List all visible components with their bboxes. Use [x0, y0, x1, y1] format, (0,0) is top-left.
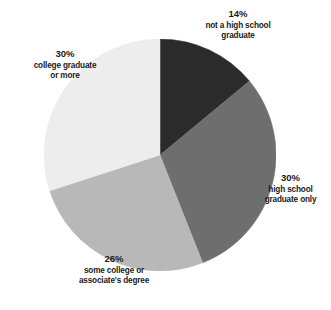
- pie-label-text-line-1: college graduate: [4, 61, 126, 71]
- pie-label-text-line-2: graduate only: [250, 195, 331, 205]
- pie-label-some-college-or-associates-degree: 26% some college or associate's degree: [48, 253, 180, 287]
- pie-label-text-line-2: graduate: [182, 31, 294, 41]
- pie-label-text-line-1: high school: [250, 185, 331, 195]
- pie-label-percent: 26%: [48, 253, 180, 265]
- pie-label-high-school-graduate-only: 30% high school graduate only: [250, 172, 331, 206]
- pie-label-not-a-high-school-graduate: 14% not a high school graduate: [182, 8, 294, 42]
- pie-label-text-line-1: some college or: [48, 266, 180, 276]
- pie-label-percent: 30%: [4, 48, 126, 60]
- pie-chart-figure: 14% not a high school graduate 30% high …: [0, 0, 331, 310]
- pie-label-text-line-1: not a high school: [182, 21, 294, 31]
- pie-label-text-line-2: associate's degree: [48, 276, 180, 286]
- pie-label-text-line-2: or more: [4, 71, 126, 81]
- pie-label-college-graduate-or-more: 30% college graduate or more: [4, 48, 126, 82]
- pie-label-percent: 30%: [250, 172, 331, 184]
- pie-label-percent: 14%: [182, 8, 294, 20]
